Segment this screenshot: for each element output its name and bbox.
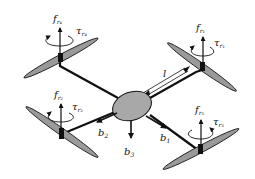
force-label-r4: fr₄: [52, 13, 63, 25]
force-label-r2: fr₂: [53, 89, 64, 101]
quadrotor-diagram: l b1 b2 b3 fr₄ τr₄ fr₁ τr₁ fr₂ τr₂: [0, 0, 255, 179]
arm-r4: [60, 60, 118, 98]
axis-b1-arrow: [146, 116, 166, 128]
hub-r4: [58, 53, 63, 62]
arm-r2: [62, 112, 115, 134]
rotor-r4: fr₄ τr₄: [22, 13, 99, 81]
arm-length-label: l: [163, 68, 166, 79]
torque-label-r2: τr₂: [72, 101, 83, 113]
axis-b2-label: b2: [98, 127, 108, 139]
hub-r1: [200, 62, 205, 71]
force-label-r3: fr₃: [194, 104, 205, 116]
arm-r3: [150, 115, 198, 150]
axis-b3-label: b3: [124, 146, 134, 158]
arm-length-indicator: l: [142, 66, 190, 96]
axis-b1-label: b1: [160, 132, 170, 144]
rotor-r2: fr₂ τr₂: [24, 89, 100, 160]
hub-r3: [198, 144, 203, 154]
torque-label-r4: τr₄: [76, 25, 87, 37]
rotor-r3: fr₃ τr₃: [161, 104, 240, 172]
torque-label-r3: τr₃: [213, 116, 224, 128]
hub-r2: [59, 128, 64, 139]
force-label-r1: fr₁: [195, 22, 205, 34]
torque-label-r1: τr₁: [214, 37, 225, 49]
